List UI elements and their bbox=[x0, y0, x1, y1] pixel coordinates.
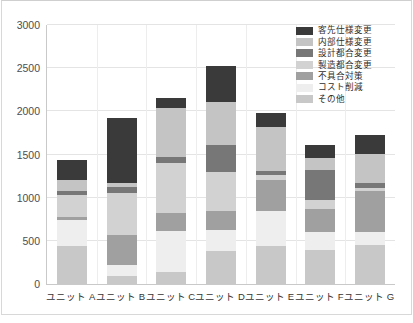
bar-segment[interactable] bbox=[355, 188, 385, 191]
legend-item[interactable]: その他 bbox=[296, 93, 396, 104]
y-axis-tick-label: 1500 bbox=[0, 149, 40, 161]
bar-segment[interactable] bbox=[206, 230, 236, 250]
chart-legend: 客先仕様変更内部仕様変更設計都合変更製造都合変更不具合対策コスト削減その他 bbox=[296, 25, 396, 105]
gridline-x-4 bbox=[246, 25, 247, 284]
x-axis-tick-label: ユニット G bbox=[344, 289, 394, 303]
bar-segment[interactable] bbox=[305, 145, 335, 158]
bar-segment[interactable] bbox=[305, 232, 335, 250]
bar-segment[interactable] bbox=[57, 180, 87, 191]
x-axis-tick-label: ユニット F bbox=[295, 289, 343, 303]
bar-segment[interactable] bbox=[305, 209, 335, 232]
legend-item[interactable]: 設計都合変更 bbox=[296, 48, 396, 59]
legend-item-label: その他 bbox=[318, 95, 345, 104]
bar-segment[interactable] bbox=[107, 235, 137, 265]
legend-swatch-icon bbox=[296, 72, 313, 80]
bar-segment[interactable] bbox=[305, 170, 335, 200]
legend-item[interactable]: 不具合対策 bbox=[296, 71, 396, 82]
x-axis-tick-label: ユニット A bbox=[46, 289, 95, 303]
y-axis-tick-label: 2000 bbox=[0, 105, 40, 117]
x-axis-tick-label: ユニット D bbox=[195, 289, 245, 303]
bar-segment[interactable] bbox=[206, 211, 236, 231]
gridline-x-2 bbox=[146, 25, 147, 284]
bar-segment[interactable] bbox=[256, 175, 286, 180]
bar-segment[interactable] bbox=[57, 195, 87, 217]
bar-segment[interactable] bbox=[256, 113, 286, 127]
bar-segment[interactable] bbox=[355, 191, 385, 232]
bar-segment[interactable] bbox=[305, 200, 335, 209]
bar-segment[interactable] bbox=[107, 193, 137, 234]
y-axis-tick-label: 2500 bbox=[0, 62, 40, 74]
legend-item[interactable]: 客先仕様変更 bbox=[296, 25, 396, 36]
stacked-bar-chart: 050010001500200025003000 ユニット Aユニット Bユニッ… bbox=[0, 0, 413, 323]
legend-item[interactable]: 製造都合変更 bbox=[296, 59, 396, 70]
bar-segment[interactable] bbox=[355, 245, 385, 284]
x-axis-tick-label: ユニット E bbox=[245, 289, 294, 303]
bar-ユニット-D[interactable] bbox=[206, 25, 236, 284]
x-axis-tick-label: ユニット C bbox=[146, 289, 196, 303]
bar-ユニット-E[interactable] bbox=[256, 25, 286, 284]
bar-segment[interactable] bbox=[57, 217, 87, 220]
legend-swatch-icon bbox=[296, 27, 313, 35]
x-axis-tick-label: ユニット B bbox=[96, 289, 145, 303]
bar-segment[interactable] bbox=[57, 220, 87, 247]
gridline-x-1 bbox=[97, 25, 98, 284]
bar-segment[interactable] bbox=[206, 172, 236, 211]
legend-item-label: 製造都合変更 bbox=[318, 61, 372, 70]
bar-segment[interactable] bbox=[57, 246, 87, 284]
bar-segment[interactable] bbox=[305, 158, 335, 171]
legend-swatch-icon bbox=[296, 49, 313, 57]
bar-ユニット-B[interactable] bbox=[107, 25, 137, 284]
bar-segment[interactable] bbox=[156, 108, 186, 157]
bar-segment[interactable] bbox=[355, 183, 385, 188]
bar-segment[interactable] bbox=[57, 160, 87, 180]
bar-segment[interactable] bbox=[355, 232, 385, 245]
legend-item-label: コスト削減 bbox=[318, 83, 363, 92]
bar-segment[interactable] bbox=[305, 250, 335, 284]
y-axis-tick-label: 0 bbox=[0, 278, 40, 290]
bar-segment[interactable] bbox=[156, 213, 186, 232]
bar-segment[interactable] bbox=[156, 231, 186, 272]
legend-swatch-icon bbox=[296, 84, 313, 92]
bar-segment[interactable] bbox=[256, 246, 286, 284]
bar-segment[interactable] bbox=[206, 145, 236, 171]
bar-segment[interactable] bbox=[256, 127, 286, 171]
bar-segment[interactable] bbox=[57, 191, 87, 195]
bar-segment[interactable] bbox=[355, 135, 385, 154]
bar-segment[interactable] bbox=[107, 276, 137, 284]
bar-segment[interactable] bbox=[256, 171, 286, 175]
bar-segment[interactable] bbox=[156, 157, 186, 163]
legend-item-label: 内部仕様変更 bbox=[318, 38, 372, 47]
bar-segment[interactable] bbox=[206, 102, 236, 145]
bar-segment[interactable] bbox=[156, 163, 186, 213]
bar-segment[interactable] bbox=[256, 211, 286, 246]
legend-item[interactable]: コスト削減 bbox=[296, 82, 396, 93]
bar-ユニット-A[interactable] bbox=[57, 25, 87, 284]
bar-segment[interactable] bbox=[107, 187, 137, 193]
legend-item-label: 客先仕様変更 bbox=[318, 26, 372, 35]
bar-segment[interactable] bbox=[107, 265, 137, 276]
y-axis-tick-label: 3000 bbox=[0, 19, 40, 31]
bar-segment[interactable] bbox=[256, 180, 286, 212]
gridline-x-3 bbox=[196, 25, 197, 284]
y-axis-tick-label: 1000 bbox=[0, 192, 40, 204]
bar-segment[interactable] bbox=[355, 154, 385, 183]
legend-swatch-icon bbox=[296, 61, 313, 69]
legend-item-label: 不具合対策 bbox=[318, 72, 363, 81]
y-axis-tick-label: 500 bbox=[0, 235, 40, 247]
bar-segment[interactable] bbox=[206, 251, 236, 284]
bar-segment[interactable] bbox=[156, 98, 186, 107]
legend-item[interactable]: 内部仕様変更 bbox=[296, 36, 396, 47]
legend-swatch-icon bbox=[296, 38, 313, 46]
bar-ユニット-C[interactable] bbox=[156, 25, 186, 284]
bar-segment[interactable] bbox=[107, 183, 137, 187]
bar-segment[interactable] bbox=[206, 66, 236, 102]
bar-segment[interactable] bbox=[156, 272, 186, 284]
legend-item-label: 設計都合変更 bbox=[318, 49, 372, 58]
bar-segment[interactable] bbox=[107, 118, 137, 183]
legend-swatch-icon bbox=[296, 95, 313, 103]
